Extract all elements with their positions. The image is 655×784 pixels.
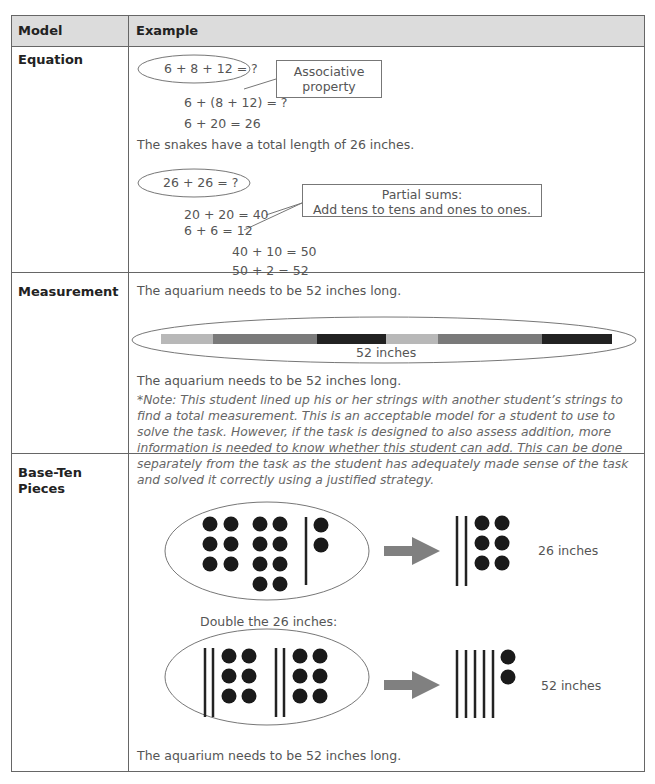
result-label-52: 52 inches <box>541 678 601 693</box>
ten-rods-group <box>457 650 493 718</box>
step: 40 + 10 = 50 <box>232 244 317 259</box>
result-text: The aquarium needs to be 52 inches long. <box>137 283 401 298</box>
callout-connector <box>244 79 276 89</box>
teacher-note: *Note: This student lined up his or her … <box>137 392 642 488</box>
result-text: The aquarium needs to be 52 inches long. <box>137 373 401 388</box>
step: 6 + 6 = 12 <box>184 223 253 238</box>
ones-dots-group <box>501 650 516 685</box>
callout-text: property <box>277 79 381 94</box>
double-caption: Double the 26 inches: <box>200 614 337 629</box>
callout-text: Partial sums: <box>303 187 541 202</box>
result-label-26: 26 inches <box>538 543 598 558</box>
step: 50 + 2 = 52 <box>232 263 309 278</box>
step: 6 + 20 = 26 <box>184 116 261 131</box>
string-segment <box>317 334 386 344</box>
arrow-icon <box>384 671 440 699</box>
callout-associative: Associative property <box>276 60 382 98</box>
string-segment <box>213 334 317 344</box>
ones-dots-group <box>203 517 329 592</box>
string-segment <box>542 334 612 344</box>
string-segment <box>438 334 542 344</box>
base-ten-oval <box>165 629 369 725</box>
callout-partial-sums: Partial sums: Add tens to tens and ones … <box>302 184 542 217</box>
step: 6 + (8 + 12) = ? <box>184 95 287 110</box>
callout-connector <box>266 203 302 215</box>
string-segment <box>161 334 213 344</box>
step: 20 + 20 = 40 <box>184 207 269 222</box>
ones-dots-group <box>222 649 328 704</box>
callout-text: Add tens to tens and ones to ones. <box>303 202 541 217</box>
strip-label: 52 inches <box>356 345 416 360</box>
equation-2: 26 + 26 = ? <box>163 175 238 190</box>
string-segment <box>386 334 438 344</box>
result-text: The snakes have a total length of 26 inc… <box>137 137 414 152</box>
ones-dots-group <box>475 516 510 571</box>
equation-1: 6 + 8 + 12 = ? <box>164 61 258 76</box>
result-text: The aquarium needs to be 52 inches long. <box>137 748 401 763</box>
callout-text: Associative <box>277 64 381 79</box>
arrow-icon <box>384 537 440 565</box>
